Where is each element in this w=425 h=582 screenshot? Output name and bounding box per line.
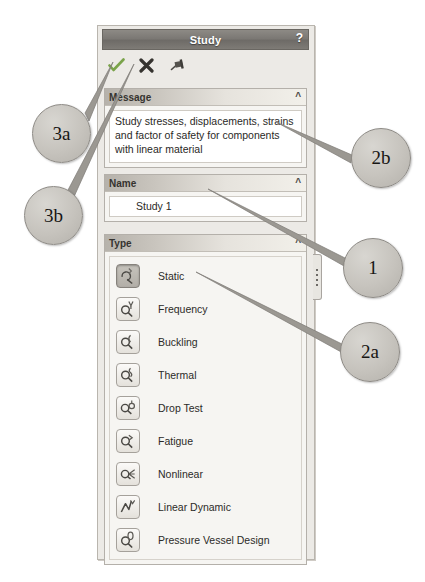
- buckling-study-icon: [116, 330, 140, 354]
- fatigue-study-icon: [116, 429, 140, 453]
- message-section: Message ^ Study stresses, displacements,…: [104, 88, 307, 168]
- pin-icon[interactable]: [166, 56, 186, 74]
- type-item-pressure-vessel-design[interactable]: Pressure Vessel Design: [110, 523, 301, 556]
- type-item-label: Pressure Vessel Design: [158, 534, 269, 546]
- grip-dot: [316, 269, 318, 271]
- name-section-title: Name: [109, 178, 136, 189]
- frequency-study-icon: [116, 297, 140, 321]
- callout-2a: 2a: [340, 322, 400, 382]
- type-item-buckling[interactable]: Buckling: [110, 325, 301, 358]
- type-item-label: Thermal: [158, 369, 197, 381]
- pressure-vessel-study-icon: [116, 528, 140, 552]
- type-item-nonlinear[interactable]: Nonlinear: [110, 457, 301, 490]
- message-section-header[interactable]: Message ^: [105, 89, 306, 106]
- callout-2b: 2b: [351, 128, 411, 188]
- type-item-drop-test[interactable]: Drop Test: [110, 391, 301, 424]
- callout-3b: 3b: [24, 186, 83, 245]
- panel-toolbar: [104, 54, 306, 76]
- study-type-list: StaticFrequencyBucklingThermalDrop TestF…: [109, 256, 302, 560]
- panel-resize-grip[interactable]: [313, 254, 322, 300]
- type-section-body: StaticFrequencyBucklingThermalDrop TestF…: [105, 252, 306, 564]
- panel-title-bar: Study ?: [102, 29, 309, 50]
- study-property-manager-panel: Study ? Message ^: [97, 25, 315, 560]
- type-item-label: Fatigue: [158, 435, 193, 447]
- type-section: Type ^ StaticFrequencyBucklingThermalDro…: [104, 234, 307, 565]
- message-text: Study stresses, displacements, strains a…: [109, 110, 302, 163]
- study-name-input[interactable]: Study 1: [109, 196, 302, 217]
- type-item-label: Nonlinear: [158, 468, 203, 480]
- static-study-icon: [116, 264, 140, 288]
- name-section-body: Study 1: [105, 192, 306, 221]
- name-section: Name ^ Study 1: [104, 174, 307, 222]
- panel-title: Study: [190, 34, 222, 46]
- type-item-label: Drop Test: [158, 402, 203, 414]
- ok-check-icon[interactable]: [106, 56, 126, 74]
- type-item-thermal[interactable]: Thermal: [110, 358, 301, 391]
- type-item-label: Static: [158, 270, 184, 282]
- type-section-title: Type: [109, 238, 132, 249]
- type-item-fatigue[interactable]: Fatigue: [110, 424, 301, 457]
- message-section-body: Study stresses, displacements, strains a…: [105, 106, 306, 167]
- chevron-up-icon[interactable]: ^: [295, 91, 301, 102]
- type-item-label: Linear Dynamic: [158, 501, 231, 513]
- type-item-static[interactable]: Static: [110, 259, 301, 292]
- type-item-frequency[interactable]: Frequency: [110, 292, 301, 325]
- callout-3a: 3a: [32, 104, 91, 163]
- name-section-header[interactable]: Name ^: [105, 175, 306, 192]
- grip-dot: [316, 284, 318, 286]
- thermal-study-icon: [116, 363, 140, 387]
- drop-test-study-icon: [116, 396, 140, 420]
- callout-1: 1: [343, 238, 403, 298]
- type-section-header[interactable]: Type ^: [105, 235, 306, 252]
- chevron-up-icon[interactable]: ^: [295, 177, 301, 188]
- nonlinear-study-icon: [116, 462, 140, 486]
- grip-dot: [316, 274, 318, 276]
- help-button[interactable]: ?: [296, 31, 303, 45]
- type-item-label: Buckling: [158, 336, 198, 348]
- type-item-label: Frequency: [158, 303, 208, 315]
- chevron-up-icon[interactable]: ^: [295, 237, 301, 248]
- message-section-title: Message: [109, 92, 151, 103]
- linear-dynamic-study-icon: [116, 495, 140, 519]
- grip-dot: [316, 279, 318, 281]
- type-item-linear-dynamic[interactable]: Linear Dynamic: [110, 490, 301, 523]
- cancel-x-icon[interactable]: [136, 56, 156, 74]
